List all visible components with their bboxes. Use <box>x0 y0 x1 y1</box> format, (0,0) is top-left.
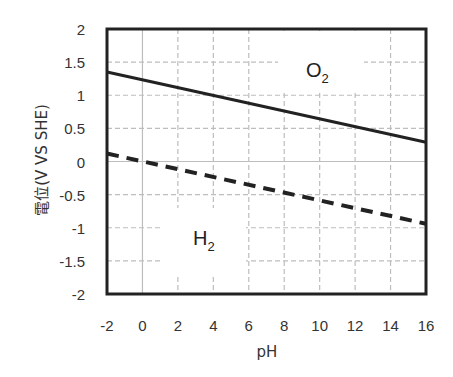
y-tick-label: -1.5 <box>59 253 85 270</box>
y-tick-label: 0 <box>77 154 85 171</box>
data-lines <box>107 72 426 224</box>
o2-label-main: O <box>306 59 322 81</box>
y-tick-label: 1.5 <box>64 54 85 71</box>
h2-line <box>107 154 426 224</box>
x-tick-label: 10 <box>311 317 328 334</box>
y-tick-label: 2 <box>77 21 85 38</box>
x-tick-label: 0 <box>138 317 146 334</box>
o2-line <box>107 72 426 142</box>
x-tick-label: -2 <box>100 317 113 334</box>
x-axis-title: pH <box>257 343 278 361</box>
grid-lines <box>107 29 426 294</box>
x-axis-ticks: -20246810121416 <box>100 317 434 334</box>
h2-label-subscript: 2 <box>207 239 214 254</box>
x-tick-label: 6 <box>245 317 253 334</box>
y-tick-label: -0.5 <box>59 187 85 204</box>
y-tick-label: -1 <box>72 220 85 237</box>
y-tick-label: -2 <box>72 286 85 303</box>
h2-label-main: H <box>193 227 207 249</box>
o2-label-subscript: 2 <box>322 71 329 86</box>
y-axis-ticks: 21.510.50-0.5-1-1.5-2 <box>59 21 85 303</box>
x-tick-label: 16 <box>418 317 435 334</box>
x-tick-label: 14 <box>382 317 399 334</box>
x-tick-label: 12 <box>347 317 364 334</box>
x-tick-label: 2 <box>174 317 182 334</box>
x-tick-label: 8 <box>280 317 288 334</box>
x-tick-label: 4 <box>209 317 217 334</box>
y-axis-title: 電位(V VS SHE) <box>33 104 51 216</box>
y-tick-label: 0.5 <box>64 120 85 137</box>
y-tick-label: 1 <box>77 87 85 104</box>
pourbaix-chart: 21.510.50-0.5-1-1.5-2 -20246810121416 pH… <box>0 0 453 377</box>
